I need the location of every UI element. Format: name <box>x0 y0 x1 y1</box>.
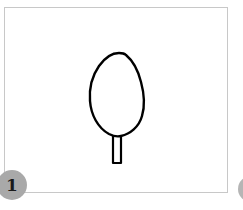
tree-crown-outline <box>90 53 144 136</box>
tree-drawing-icon <box>0 0 243 210</box>
tree-trunk-outline <box>113 136 121 163</box>
step-number-label: 1 <box>6 177 18 194</box>
step-panel-canvas: 1 <box>0 0 243 210</box>
